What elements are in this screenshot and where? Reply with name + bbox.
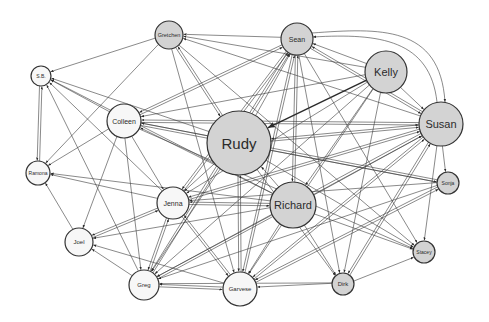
node-label: Joel [73, 239, 84, 245]
edge-kelly-to-dirk [344, 92, 381, 272]
node-sb[interactable]: S.B. [31, 66, 51, 86]
edge-garvese-to-jenna [184, 215, 230, 275]
edge-richard-to-sean [295, 56, 298, 183]
edge-greg-to-garvese [159, 287, 223, 290]
node-label: Kelly [374, 66, 398, 78]
edge-kelly-to-sean [313, 44, 367, 64]
node-label: Rudy [221, 135, 257, 152]
node-kelly[interactable]: Kelly [365, 51, 407, 93]
network-diagram: GretchenS.B.ColleenRudySeanKellySusanRam… [0, 0, 489, 322]
edge-garvese-to-greg [160, 284, 224, 287]
edge-kelly-to-susan [400, 87, 423, 109]
edge-joel-to-ramona [45, 183, 73, 229]
node-label: Stacey [416, 249, 432, 255]
node-ramona[interactable]: Ramona [26, 161, 50, 185]
edge-jenna-to-joel [92, 208, 158, 235]
node-richard[interactable]: Richard [270, 182, 316, 228]
edge-sb-to-ramona [37, 86, 39, 161]
edge-dirk-to-garvese [257, 283, 332, 287]
edge-jenna-to-sb [49, 82, 162, 191]
node-label: Gretchen [158, 32, 181, 38]
edge-sean-to-colleen [139, 45, 282, 113]
edge-colleen-to-susan [141, 122, 419, 125]
edge-richard-to-garvese [248, 224, 279, 274]
edge-gretchen-to-sb [51, 38, 156, 72]
edge-jenna-to-garvese [182, 216, 228, 276]
node-greg[interactable]: Greg [129, 270, 159, 300]
node-label: Sean [289, 36, 305, 43]
node-rudy[interactable]: Rudy [207, 111, 271, 175]
node-jenna[interactable]: Jenna [157, 187, 189, 219]
edge-jenna-to-greg [148, 218, 167, 270]
node-gretchen[interactable]: Gretchen [155, 21, 183, 49]
edge-gretchen-to-ramona [46, 44, 159, 163]
edge-colleen-to-jenna [132, 136, 164, 189]
node-label: Susan [425, 118, 456, 130]
node-label: Garvese [229, 286, 252, 292]
edge-ramona-to-sb [40, 87, 42, 162]
edge-garvese-to-rudy [240, 176, 241, 273]
node-label: Ramona [29, 170, 48, 176]
edge-colleen-to-ramona [48, 129, 109, 166]
node-sean[interactable]: Sean [281, 23, 313, 55]
edge-richard-to-jenna [190, 202, 271, 203]
edge-rudy-to-colleen [141, 123, 207, 136]
edge-rudy-to-garvese [238, 175, 239, 272]
node-label: S.B. [36, 73, 45, 79]
node-susan[interactable]: Susan [419, 102, 463, 146]
node-label: Greg [137, 282, 150, 288]
edge-colleen-to-sb [51, 80, 110, 112]
node-label: Sonja [442, 180, 455, 186]
edge-richard-to-susan [314, 136, 422, 195]
edge-greg-to-joel [92, 249, 132, 276]
node-stacey[interactable]: Stacey [413, 241, 435, 263]
edge-colleen-to-sean [140, 47, 283, 115]
edge-dirk-to-stacey [354, 257, 414, 281]
edge-kelly-to-gretchen [184, 36, 366, 67]
node-label: Richard [274, 199, 312, 211]
edge-joel-to-jenna [92, 210, 158, 237]
graph-canvas: GretchenS.B.ColleenRudySeanKellySusanRam… [0, 0, 489, 322]
edge-susan-to-sonja [442, 146, 445, 172]
node-label: Colleen [112, 118, 136, 125]
node-label: Dirk [338, 281, 350, 287]
edge-richard-to-rudy [261, 167, 279, 187]
edge-colleen-to-joel [83, 137, 117, 229]
node-sonja[interactable]: Sonja [437, 172, 459, 194]
node-label: Jenna [163, 200, 182, 207]
edge-rudy-to-gretchen [178, 47, 223, 116]
edge-colleen-to-greg [125, 138, 141, 270]
edge-richard-to-dirk [304, 225, 336, 275]
node-joel[interactable]: Joel [65, 228, 93, 256]
edge-jenna-to-ramona [51, 175, 158, 199]
node-colleen[interactable]: Colleen [107, 104, 141, 138]
node-dirk[interactable]: Dirk [332, 273, 354, 295]
edge-sean-to-gretchen [184, 34, 282, 37]
node-garvese[interactable]: Garvese [223, 272, 257, 306]
edge-jenna-to-richard [189, 205, 270, 206]
